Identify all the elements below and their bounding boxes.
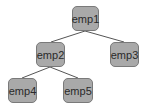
- node-label: emp2: [37, 49, 65, 61]
- edge-emp2-emp4: [22, 67, 50, 78]
- node-emp3[interactable]: emp3: [110, 42, 139, 67]
- node-emp2[interactable]: emp2: [36, 42, 65, 67]
- node-label: emp3: [111, 49, 139, 61]
- node-emp1[interactable]: emp1: [72, 6, 99, 31]
- edge-emp1-emp3: [85, 31, 124, 42]
- edge-emp2-emp5: [50, 67, 78, 78]
- node-label: emp1: [72, 13, 100, 25]
- node-label: emp5: [64, 85, 92, 97]
- node-label: emp4: [9, 85, 37, 97]
- node-emp4[interactable]: emp4: [8, 78, 37, 103]
- edge-emp1-emp2: [51, 31, 85, 42]
- node-emp5[interactable]: emp5: [63, 78, 93, 103]
